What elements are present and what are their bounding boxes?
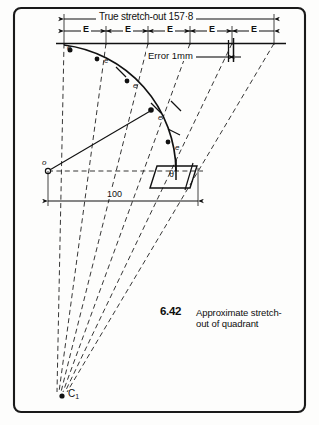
- radial-line-6: [67, 44, 274, 393]
- segment-label-4: E: [207, 25, 217, 34]
- figure-border: [14, 8, 305, 412]
- true-stretch-out-label: True stretch-out 157·8: [96, 12, 196, 23]
- segment-label-1: E: [81, 25, 91, 34]
- theta-angle-label: θ: [169, 170, 174, 179]
- convergence-point: [59, 393, 64, 398]
- chord-label-5: e: [175, 144, 179, 152]
- segment-label-3: E: [165, 25, 175, 34]
- error-label: Error 1mm: [146, 51, 195, 61]
- convergence-label-subscript: 1: [75, 393, 79, 400]
- radial-line-3: [61, 44, 148, 393]
- caption-text: Approximate stretch- out of quadrant: [196, 307, 282, 329]
- caption-line-2: out of quadrant: [196, 318, 258, 329]
- caption-line-1: Approximate stretch-: [196, 307, 282, 318]
- radial-line-1: [57, 44, 64, 393]
- error-callout: [196, 38, 241, 62]
- technical-drawing-svg: [0, 0, 319, 425]
- chord-label-1: e: [67, 44, 71, 52]
- origin-radius-line: [48, 110, 152, 171]
- origin-label: o: [42, 159, 46, 167]
- chord-label-2: e: [104, 57, 108, 65]
- segment-label-5: E: [249, 25, 259, 34]
- segment-label-2: E: [123, 25, 133, 34]
- radius-dimension-label: 100: [104, 190, 125, 199]
- chord-label-3: e: [133, 82, 137, 90]
- radial-line-5: [65, 44, 232, 393]
- chord-label-4: e: [158, 114, 162, 122]
- convergence-point-label: C1: [68, 389, 79, 400]
- caption-figure-number: 6.42: [160, 305, 181, 317]
- radial-dashed-lines: [57, 44, 274, 393]
- figure-container: True stretch-out 157·8 E E E E E Error 1…: [0, 0, 319, 425]
